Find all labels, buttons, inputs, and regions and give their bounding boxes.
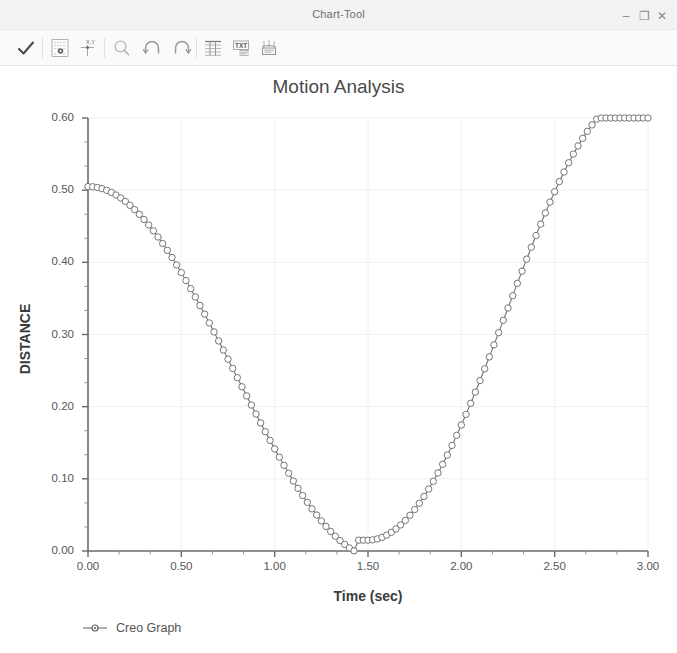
y-tick-label: 0.00 [34,544,74,556]
export-button[interactable] [255,34,283,62]
tick-marks [82,118,648,557]
text-format-icon: TXT [230,37,252,59]
svg-text:X,Y: X,Y [86,39,95,45]
title-bar: Chart-Tool – ❐ ✕ [0,0,677,30]
toolbar: X,Y [0,30,677,66]
y-tick-label: 0.20 [34,400,74,412]
x-tick-label: 1.00 [253,560,297,572]
x-tick-label: 0.00 [66,560,110,572]
legend-marker-icon [82,622,108,634]
x-tick-label: 1.50 [346,560,390,572]
y-tick-label: 0.10 [34,472,74,484]
x-tick-label: 2.50 [533,560,577,572]
close-icon[interactable]: ✕ [655,9,669,23]
window-title: Chart-Tool [0,8,677,20]
toolbar-separator-3 [196,38,197,58]
chart-area[interactable]: Motion Analysis 0.000.501.001.502.002.50… [0,66,677,653]
svg-text:TXT: TXT [235,42,247,49]
gridlines [88,118,648,551]
legend-label: Creo Graph [116,621,181,635]
zoom-button[interactable] [108,34,136,62]
graph-settings-button[interactable] [46,34,74,62]
toolbar-separator-2 [104,38,105,58]
y-tick-label: 0.60 [34,111,74,123]
maximize-icon[interactable]: ❐ [637,9,651,23]
legend[interactable]: Creo Graph [82,618,181,638]
undo-arrow-icon [141,37,163,59]
zoom-magnifier-icon [111,37,133,59]
export-save-icon [258,37,280,59]
xy-axis-button[interactable]: X,Y [74,34,102,62]
table-grid-icon [202,37,224,59]
x-axis-title: Time (sec) [88,588,648,604]
redo-arrow-icon [171,37,193,59]
y-axis-title: DISTANCE [17,269,33,409]
accept-check-button[interactable] [12,34,40,62]
y-tick-label: 0.50 [34,183,74,195]
redo-button[interactable] [168,34,196,62]
xy-axis-icon: X,Y [77,37,99,59]
y-tick-label: 0.30 [34,328,74,340]
toolbar-separator-1 [42,38,43,58]
x-tick-label: 0.50 [159,560,203,572]
minimize-icon[interactable]: – [619,9,633,23]
x-tick-label: 2.00 [439,560,483,572]
show-table-button[interactable] [199,34,227,62]
accept-check-icon [16,38,36,58]
graph-settings-icon [49,37,71,59]
x-tick-label: 3.00 [626,560,670,572]
text-format-button[interactable]: TXT [227,34,255,62]
chart-tool-window: Chart-Tool – ❐ ✕ [0,0,677,653]
undo-button[interactable] [138,34,166,62]
y-tick-label: 0.40 [34,255,74,267]
